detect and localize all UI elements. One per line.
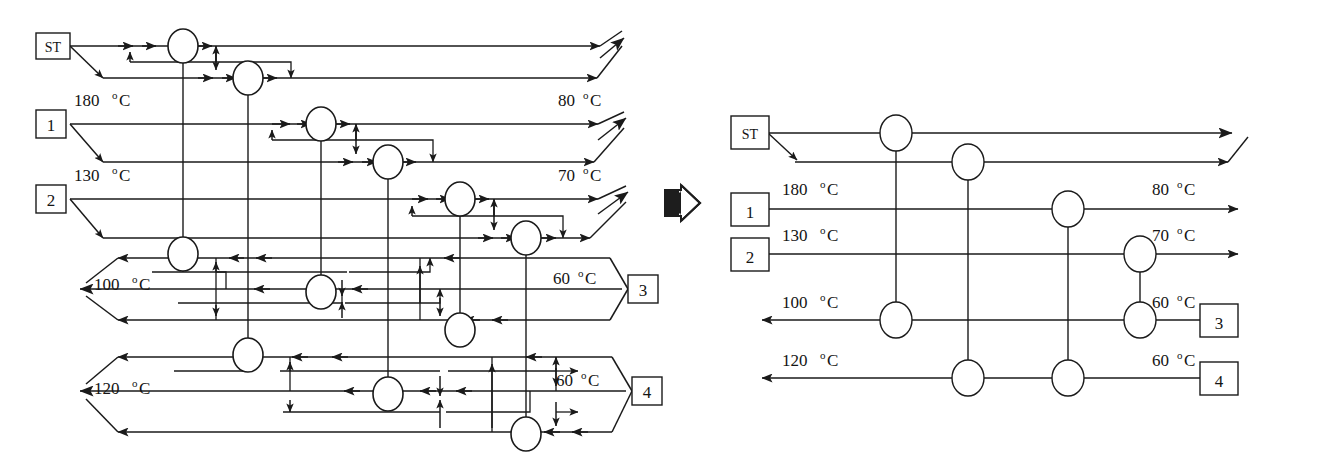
left-stream-boxes: ST 1 2 3 4 xyxy=(36,33,662,405)
exchanger-unit[interactable] xyxy=(880,115,912,151)
left-split-st xyxy=(70,46,103,78)
temp-60-value: 60 xyxy=(553,269,570,288)
degree-symbol: o xyxy=(820,224,826,236)
degree-symbol: o xyxy=(820,291,826,303)
right-network-group: ST 1 2 3 4 180 o C 130 o C 80 xyxy=(731,115,1248,396)
right-hot-stream-lines xyxy=(768,133,1248,254)
temp-100-value: 100 xyxy=(782,293,808,312)
exchanger-unit[interactable] xyxy=(1052,191,1084,227)
transform-arrow-group xyxy=(665,185,700,221)
temp-label-120: 120 o C xyxy=(782,349,838,370)
left-merge-st-up xyxy=(600,31,622,46)
exchanger-unit[interactable] xyxy=(511,417,541,451)
exchanger-unit[interactable] xyxy=(306,107,336,141)
exchanger-unit[interactable] xyxy=(1052,360,1084,396)
right-split-st xyxy=(768,133,797,160)
left-conv-4-dn xyxy=(86,399,118,432)
box-2-label: 2 xyxy=(47,191,56,210)
exchanger-unit[interactable] xyxy=(168,237,198,271)
temp-180-value: 180 xyxy=(74,91,100,110)
left-bypass-21 xyxy=(448,357,556,371)
temp-130-value: 130 xyxy=(74,166,100,185)
right-merge-st xyxy=(1228,137,1248,162)
temp-label-100: 100 o C xyxy=(782,291,838,312)
exchanger-unit[interactable] xyxy=(373,377,403,411)
network-diagram-svg: ST 1 2 3 4 180 o C 130 o C 80 xyxy=(0,0,1317,459)
right-exchanger-units xyxy=(880,115,1156,396)
temp-label-70: 70 o C xyxy=(558,164,601,185)
temp-label-180: 180 o C xyxy=(782,178,838,199)
left-conv-3-dn xyxy=(86,296,118,320)
exchanger-unit[interactable] xyxy=(306,275,336,309)
exchanger-unit[interactable] xyxy=(233,61,263,95)
temp-60-value: 60 xyxy=(556,371,573,390)
left-cold-stream-lines xyxy=(80,258,632,432)
exchanger-unit[interactable] xyxy=(445,313,475,347)
temp-80-value: 80 xyxy=(558,91,575,110)
left-bypass-14 xyxy=(345,289,440,303)
temp-label-60-stream4: 60 o C xyxy=(1152,349,1195,370)
exchanger-unit[interactable] xyxy=(445,182,475,216)
right-exchanger-links xyxy=(896,133,1140,378)
left-div-3-up xyxy=(610,258,628,289)
temp-120-value: 120 xyxy=(94,379,120,398)
celsius-symbol: C xyxy=(590,166,601,185)
left-bypass-20 xyxy=(446,391,530,412)
degree-symbol: o xyxy=(581,369,587,381)
degree-symbol: o xyxy=(1177,349,1183,361)
degree-symbol: o xyxy=(132,273,138,285)
exchanger-unit[interactable] xyxy=(511,221,541,255)
temp-60-value: 60 xyxy=(1152,351,1169,370)
celsius-symbol: C xyxy=(119,166,130,185)
degree-symbol: o xyxy=(583,164,589,176)
right-block-arrow-outline-icon xyxy=(681,185,700,221)
exchanger-unit[interactable] xyxy=(952,144,984,180)
temp-label-60-stream3: 60 o C xyxy=(1152,291,1195,312)
celsius-symbol: C xyxy=(1184,293,1195,312)
celsius-symbol: C xyxy=(1184,226,1195,245)
temp-70-value: 70 xyxy=(1152,226,1169,245)
left-merge-1-dn xyxy=(594,128,624,162)
left-split-2 xyxy=(70,199,103,238)
celsius-symbol: C xyxy=(588,371,599,390)
temp-label-80: 80 o C xyxy=(1152,178,1195,199)
right-temperature-labels: 180 o C 130 o C 80 o C 70 o C 100 o xyxy=(782,178,1195,370)
celsius-symbol: C xyxy=(1184,180,1195,199)
temp-label-130: 130 o C xyxy=(782,224,838,245)
exchanger-unit[interactable] xyxy=(880,302,912,338)
celsius-symbol: C xyxy=(139,379,150,398)
left-cold-inline-arrows xyxy=(216,258,588,432)
exchanger-unit[interactable] xyxy=(233,338,263,372)
exchanger-unit[interactable] xyxy=(373,145,403,179)
degree-symbol: o xyxy=(1177,224,1183,236)
temp-label-130: 130 o C xyxy=(74,164,130,185)
celsius-symbol: C xyxy=(827,351,838,370)
temp-80-value: 80 xyxy=(1152,180,1169,199)
temp-label-60-stream3: 60 o C xyxy=(553,267,596,288)
temp-60-value: 60 xyxy=(1152,293,1169,312)
arrow-tail-icon xyxy=(665,190,679,216)
box-3-label: 3 xyxy=(1215,314,1224,333)
figure-canvas: ST 1 2 3 4 180 o C 130 o C 80 xyxy=(0,0,1317,459)
celsius-symbol: C xyxy=(585,269,596,288)
exchanger-unit[interactable] xyxy=(168,29,198,63)
box-4-label: 4 xyxy=(643,383,652,402)
celsius-symbol: C xyxy=(827,293,838,312)
box-4-label: 4 xyxy=(1215,372,1224,391)
celsius-symbol: C xyxy=(119,91,130,110)
left-network-group: ST 1 2 3 4 180 o C 130 o C 80 xyxy=(36,29,662,451)
celsius-symbol: C xyxy=(590,91,601,110)
degree-symbol: o xyxy=(820,349,826,361)
box-st-label: ST xyxy=(742,127,759,142)
temp-100-value: 100 xyxy=(94,275,120,294)
degree-symbol: o xyxy=(132,377,138,389)
temp-label-60-stream4: 60 o C xyxy=(556,369,599,390)
temp-label-70: 70 o C xyxy=(1152,224,1195,245)
exchanger-unit[interactable] xyxy=(952,360,984,396)
degree-symbol: o xyxy=(1177,178,1183,190)
celsius-symbol: C xyxy=(1184,351,1195,370)
temp-label-120: 120 o C xyxy=(94,377,150,398)
temp-180-value: 180 xyxy=(782,180,808,199)
box-st-label: ST xyxy=(45,40,62,55)
box-1-label: 1 xyxy=(47,116,56,135)
